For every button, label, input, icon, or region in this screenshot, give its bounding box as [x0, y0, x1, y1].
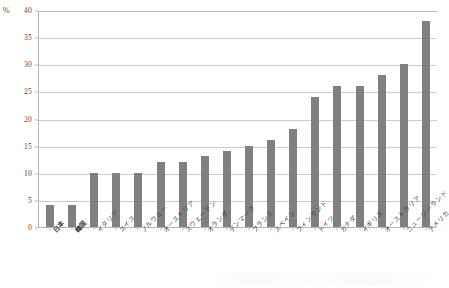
x-axis-labels: 日本韓国イタリアスイスノルウェーオーストリアスウェーデンオランダデンマークフラン… — [38, 229, 436, 288]
bar-slot — [393, 11, 415, 227]
bar[interactable] — [46, 205, 54, 227]
bar-slot — [105, 11, 127, 227]
bar[interactable] — [422, 21, 430, 227]
bar-slot — [371, 11, 393, 227]
bar-slot — [150, 11, 172, 227]
bar[interactable] — [333, 86, 341, 227]
bar-slot — [194, 11, 216, 227]
bar-slot — [238, 11, 260, 227]
bar-slot — [61, 11, 83, 227]
bar[interactable] — [378, 75, 386, 227]
y-axis-unit-label: % — [3, 7, 10, 15]
bar[interactable] — [90, 173, 98, 227]
y-tick-label: 5 — [28, 197, 32, 205]
y-tick-label: 30 — [24, 62, 32, 70]
bar-chart: % 0510152025303540 日本韓国イタリアスイスノルウェーオーストリ… — [0, 0, 449, 288]
y-tick-label: 0 — [28, 224, 32, 232]
bars-layer — [39, 11, 436, 227]
plot-area — [38, 11, 436, 228]
bar-slot — [127, 11, 149, 227]
y-tick-label: 20 — [24, 116, 32, 124]
bar-slot — [83, 11, 105, 227]
bar-slot — [349, 11, 371, 227]
bar-slot — [326, 11, 348, 227]
bar-slot — [39, 11, 61, 227]
bar-slot — [304, 11, 326, 227]
bar-slot — [260, 11, 282, 227]
y-tick-label: 25 — [24, 89, 32, 97]
y-tick-label: 40 — [24, 7, 32, 15]
y-axis: 0510152025303540 — [0, 0, 38, 228]
y-tick-label: 10 — [24, 170, 32, 178]
y-tick-label: 35 — [24, 34, 32, 42]
bar-slot — [282, 11, 304, 227]
y-tick-label: 15 — [24, 143, 32, 151]
bar-slot — [216, 11, 238, 227]
bar-slot — [172, 11, 194, 227]
bar[interactable] — [68, 205, 76, 227]
bar[interactable] — [356, 86, 364, 227]
